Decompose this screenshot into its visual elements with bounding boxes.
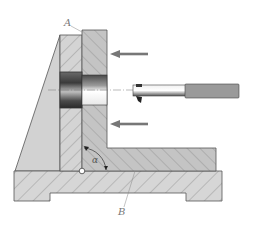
diagram-canvas: α A B [0, 0, 253, 226]
lower-force-arrow [110, 120, 148, 128]
leader-a [71, 26, 82, 32]
label-b: B [117, 206, 125, 217]
support-bracket [15, 35, 60, 171]
boring-tool [133, 84, 239, 103]
cutting-insert [136, 96, 142, 103]
base-b [14, 171, 222, 201]
tool-cap [136, 84, 142, 87]
pivot-point [79, 168, 85, 174]
tool-shank [185, 84, 239, 98]
angle-alpha-label: α [92, 155, 98, 165]
upper-force-arrow [110, 50, 148, 58]
label-a: A [63, 17, 71, 28]
